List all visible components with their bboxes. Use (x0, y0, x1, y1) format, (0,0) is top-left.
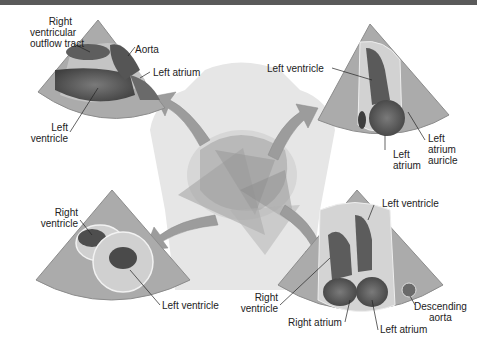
label-line: ventricular (30, 27, 72, 38)
label-line: ventricle (22, 133, 68, 144)
echo-panel-top-right (318, 24, 449, 136)
label-right-ventricular-outflow-tract: Right ventricular outflow tract (30, 16, 72, 49)
label-descending-aorta: Descending aorta (414, 301, 467, 323)
label-line: Right (30, 16, 72, 27)
label-line: auricle (428, 155, 457, 166)
label-left-ventricle-br: Left ventricle (382, 198, 439, 209)
label-left-atrium-tl: Left atrium (153, 67, 200, 78)
label-left-ventricle-bl: Left ventricle (162, 300, 219, 311)
label-line: Right (234, 292, 278, 303)
label-left-ventricle-tr: Left ventricle (267, 63, 324, 74)
label-line: Left (428, 133, 457, 144)
label-line: Left (22, 122, 68, 133)
label-line: ventricle (30, 218, 78, 229)
label-line: Left (393, 149, 421, 160)
label-left-atrium-auricle: Left atrium auricle (428, 133, 457, 166)
label-line: atrium (428, 144, 457, 155)
label-left-ventricle-tl: Left ventricle (22, 122, 68, 144)
label-right-atrium: Right atrium (288, 317, 342, 328)
label-line: atrium (393, 160, 421, 171)
label-aorta: Aorta (135, 44, 159, 55)
label-line: ventricle (234, 303, 278, 314)
label-line: Right (30, 207, 78, 218)
label-line: aorta (414, 312, 467, 323)
label-left-atrium-tr: Left atrium (393, 149, 421, 171)
label-line: outflow tract (30, 38, 72, 49)
label-right-ventricle-br: Right ventricle (234, 292, 278, 314)
label-left-atrium-br: Left atrium (380, 324, 427, 335)
label-right-ventricle-bl: Right ventricle (30, 207, 78, 229)
label-line: Descending (414, 301, 467, 312)
